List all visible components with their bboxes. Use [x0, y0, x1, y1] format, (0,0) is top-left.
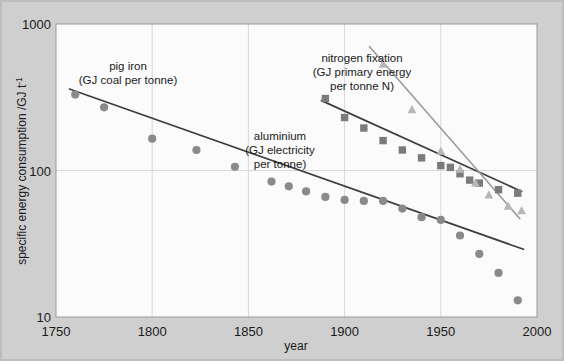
- energy-consumption-chart: 175018001850190019502000 100010010 pig i…: [0, 0, 564, 361]
- x-tick-label: 2000: [523, 324, 552, 339]
- data-point: [302, 187, 310, 195]
- data-point: [417, 213, 425, 221]
- data-point: [495, 186, 502, 193]
- x-tick-label: 1950: [426, 324, 455, 339]
- data-point: [514, 296, 522, 304]
- data-point: [514, 189, 521, 196]
- data-point: [466, 176, 473, 183]
- data-point: [447, 164, 454, 171]
- x-tick-label: 1800: [138, 324, 167, 339]
- data-point: [379, 137, 386, 144]
- data-point: [494, 269, 502, 277]
- data-point: [192, 146, 200, 154]
- data-point: [360, 124, 367, 131]
- annotation-aluminium: aluminium(GJ electricityper tonne): [245, 130, 315, 170]
- data-point: [437, 216, 445, 224]
- data-point: [399, 146, 406, 153]
- data-point: [379, 197, 387, 205]
- data-point: [322, 95, 329, 102]
- x-axis-title: year: [284, 339, 307, 353]
- data-point: [71, 90, 79, 98]
- data-point: [437, 162, 444, 169]
- data-point: [267, 177, 275, 185]
- data-point: [148, 135, 156, 143]
- data-point: [285, 182, 293, 190]
- figure-container: 175018001850190019502000 100010010 pig i…: [0, 0, 564, 361]
- data-point: [398, 204, 406, 212]
- y-axis-title: specific energy consumption /GJ t-1: [14, 77, 29, 265]
- x-tick-label: 1750: [42, 324, 71, 339]
- x-axis-tick-labels: 175018001850190019502000: [42, 324, 552, 339]
- data-point: [100, 103, 108, 111]
- data-point: [341, 196, 349, 204]
- data-point: [418, 154, 425, 161]
- data-point: [321, 193, 329, 201]
- x-tick-label: 1850: [234, 324, 263, 339]
- data-point: [475, 250, 483, 258]
- x-tick-label: 1900: [330, 324, 359, 339]
- y-tick-label: 1000: [22, 17, 51, 32]
- y-tick-label: 100: [29, 164, 51, 179]
- data-point: [341, 114, 348, 121]
- data-point: [231, 163, 239, 171]
- data-point: [456, 231, 464, 239]
- y-tick-label: 10: [37, 310, 51, 325]
- y-axis-title-group: specific energy consumption /GJ t-1: [14, 77, 29, 265]
- data-point: [360, 197, 368, 205]
